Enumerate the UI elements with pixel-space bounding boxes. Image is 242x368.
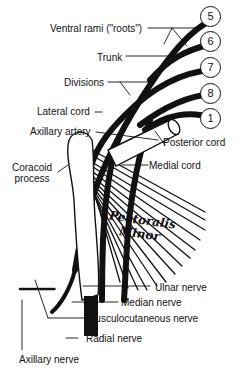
label-radial-nerve: Radial nerve [86, 333, 142, 344]
label-medial-cord: Medial cord [149, 160, 201, 171]
root-c5-badge: 5 [200, 6, 221, 27]
label-ventral-rami: Ventral rami ("roots") [50, 23, 142, 34]
label-divisions: Divisions [64, 77, 104, 88]
root-c6-badge: 6 [200, 31, 221, 52]
brachial-plexus-diagram: 5 6 7 8 1 Ventral rami ("roots") Trunk D… [0, 0, 242, 368]
label-trunk: Trunk [97, 52, 122, 63]
label-ulnar-nerve: Ulnar nerve [155, 282, 207, 293]
label-axillary-artery: Axillary artery [30, 126, 91, 137]
root-t1-badge: 1 [200, 108, 221, 129]
label-lateral-cord: Lateral cord [37, 106, 90, 117]
label-coracoid-line1: Coracoid [12, 162, 52, 173]
root-c7-badge: 7 [200, 57, 221, 78]
label-coracoid-line2: process [12, 173, 52, 184]
label-axillary-nerve: Axillary nerve [19, 354, 79, 365]
label-coracoid-process: Coracoid process [12, 162, 52, 184]
label-median-nerve: Median nerve [121, 297, 182, 308]
label-musculocutaneous-nerve: Musculocutaneous nerve [87, 313, 198, 324]
label-posterior-cord: Posterior cord [163, 137, 225, 148]
root-t1-badge: 8 [200, 83, 221, 104]
